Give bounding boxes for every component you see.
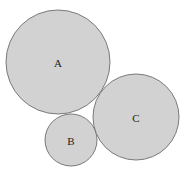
circle-b-label: B xyxy=(67,135,74,147)
circles-diagram: A B C xyxy=(0,0,185,174)
circle-c-label: C xyxy=(132,112,139,124)
circle-a: A xyxy=(6,10,110,114)
circle-a-label: A xyxy=(54,57,62,69)
circle-b: B xyxy=(45,114,97,166)
circle-c: C xyxy=(93,74,179,160)
diagram-canvas: A B C xyxy=(0,0,185,174)
